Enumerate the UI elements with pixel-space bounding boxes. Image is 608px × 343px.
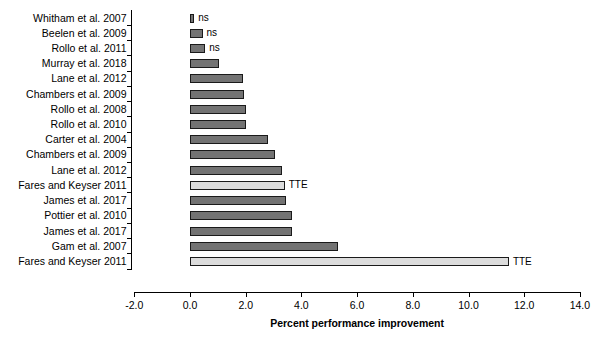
x-axis-tick-label: 6.0 (327, 300, 387, 311)
y-axis-category-label: James et al. 2017 (0, 226, 127, 237)
bar (190, 44, 205, 53)
y-axis-tick (127, 40, 132, 41)
y-axis-category-label: Murray et al. 2018 (0, 58, 127, 69)
y-axis-category-label: Rollo et al. 2010 (0, 119, 127, 130)
bar (190, 74, 243, 83)
x-axis-tick-label: -2.0 (104, 300, 164, 311)
y-axis-tick (127, 116, 132, 117)
bar (190, 135, 268, 144)
y-axis-tick (127, 71, 132, 72)
bar (190, 181, 285, 190)
y-axis-tick (127, 253, 132, 254)
x-axis-title: Percent performance improvement (134, 317, 580, 329)
y-axis-tick (127, 132, 132, 133)
y-axis-category-label: James et al. 2017 (0, 195, 127, 206)
bar (190, 242, 338, 251)
x-axis-tick-label: 8.0 (383, 300, 443, 311)
x-axis-tick-label: 4.0 (271, 300, 331, 311)
y-axis-tick (127, 25, 132, 26)
y-axis-category-label: Fares and Keyser 2011 (0, 180, 127, 191)
bar (190, 257, 509, 266)
x-axis-tick (246, 292, 247, 297)
bar (190, 166, 282, 175)
y-axis-category-label: Carter et al. 2004 (0, 134, 127, 145)
y-axis-tick (127, 101, 132, 102)
bar (190, 14, 194, 23)
y-axis-tick (127, 177, 132, 178)
y-axis-tick (127, 162, 132, 163)
y-axis-tick (127, 208, 132, 209)
y-axis-category-label: Gam et al. 2007 (0, 241, 127, 252)
bar-annotation: TTE (289, 180, 308, 190)
y-axis-tick (127, 86, 132, 87)
x-axis-tick-label: 12.0 (494, 300, 554, 311)
bar (190, 211, 292, 220)
bar-annotation: ns (209, 43, 220, 53)
y-axis-tick (127, 238, 132, 239)
y-axis-spine (131, 10, 132, 270)
y-axis-tick (127, 55, 132, 56)
y-axis-category-label: Whitham et al. 2007 (0, 13, 127, 24)
x-axis-tick-label: 14.0 (550, 300, 608, 311)
y-axis-category-label: Pottier et al. 2010 (0, 210, 127, 221)
y-axis-category-label: Chambers et al. 2009 (0, 149, 127, 160)
y-axis-category-label: Fares and Keyser 2011 (0, 256, 127, 267)
y-axis-category-label: Lane et al. 2012 (0, 165, 127, 176)
bar (190, 105, 246, 114)
x-axis-tick (190, 292, 191, 297)
y-axis-category-label: Rollo et al. 2008 (0, 104, 127, 115)
bar (190, 29, 203, 38)
x-axis-tick-label: 10.0 (439, 300, 499, 311)
y-axis-tick (127, 147, 132, 148)
bar-annotation: ns (198, 13, 209, 23)
bar (190, 90, 244, 99)
x-axis-tick (524, 292, 525, 297)
y-axis-tick (127, 269, 132, 270)
bar (190, 59, 219, 68)
bar-annotation: TTE (513, 257, 532, 267)
y-axis-category-label: Rollo et al. 2011 (0, 43, 127, 54)
bar (190, 120, 246, 129)
x-axis-tick-label: 0.0 (160, 300, 220, 311)
y-axis-tick (127, 223, 132, 224)
x-axis-tick-label: 2.0 (216, 300, 276, 311)
x-axis-tick (580, 292, 581, 297)
y-axis-category-label: Lane et al. 2012 (0, 73, 127, 84)
y-axis-category-label: Beelen et al. 2009 (0, 28, 127, 39)
bar (190, 196, 286, 205)
x-axis-tick (301, 292, 302, 297)
y-axis-tick (127, 192, 132, 193)
x-axis-tick (134, 292, 135, 297)
bar (190, 227, 292, 236)
bar (190, 150, 275, 159)
x-axis-tick (357, 292, 358, 297)
bar-chart: Percent performance improvement -2.00.02… (0, 0, 608, 343)
y-axis-category-label: Chambers et al. 2009 (0, 89, 127, 100)
x-axis-tick (413, 292, 414, 297)
x-axis-tick (469, 292, 470, 297)
bar-annotation: ns (207, 28, 218, 38)
